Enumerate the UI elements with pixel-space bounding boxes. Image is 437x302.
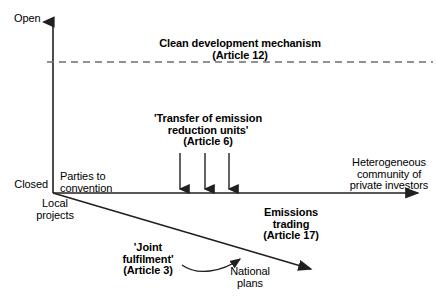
diagram-canvas: Open Closed Clean development mechanism … (0, 0, 437, 302)
joint-fulfilment-label: 'Joint fulfilment' (Article 3) (116, 242, 180, 277)
local-projects-label: Local projects (22, 198, 88, 221)
transfer-of-emission-reduction-units-label: 'Transfer of emission reduction units' (… (138, 113, 278, 148)
parties-to-convention-label: Parties to convention (60, 171, 152, 194)
y-axis-closed-label: Closed (0, 179, 48, 191)
national-plans-label: National plans (222, 266, 278, 289)
clean-development-mechanism-label: Clean development mechanism (Article 12) (150, 38, 330, 61)
heterogeneous-community-label: Heterogeneous community of private inves… (342, 157, 436, 192)
y-axis-open-label: Open (14, 13, 50, 25)
emissions-trading-label: Emissions trading (Article 17) (243, 207, 339, 242)
